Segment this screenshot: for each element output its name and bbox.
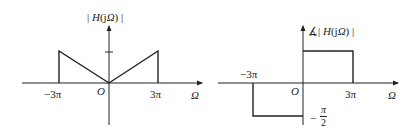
right-xlabel: Ω bbox=[388, 90, 396, 101]
phase-curve-positive bbox=[303, 51, 353, 83]
right-ytick-pi-over-2: π 2 bbox=[320, 105, 327, 128]
ylabel-H: H bbox=[92, 11, 100, 23]
right-ylabel: ∡| H(jΩ) | bbox=[308, 26, 354, 37]
ylabel-j: (j bbox=[331, 25, 338, 37]
magnitude-plot bbox=[22, 26, 202, 125]
ylabel-bar-close: ) | bbox=[115, 11, 124, 23]
left-origin-label: O bbox=[97, 86, 105, 97]
ylabel-j: (j bbox=[100, 11, 107, 23]
ylabel-bar-close: ) | bbox=[346, 25, 355, 37]
ylabel-H: H bbox=[323, 25, 331, 37]
ylabel-omega: Ω bbox=[107, 11, 115, 23]
left-tick-pos-3pi: 3π bbox=[150, 89, 161, 100]
angle-icon: ∡ bbox=[308, 25, 318, 37]
right-tick-neg-3pi: −3π bbox=[240, 69, 257, 80]
right-tick-pos-3pi: 3π bbox=[345, 89, 356, 100]
left-xlabel: Ω bbox=[191, 90, 199, 101]
plots-canvas bbox=[0, 0, 412, 135]
ylabel-omega: Ω bbox=[338, 25, 346, 37]
left-tick-neg-3pi: −3π bbox=[44, 89, 61, 100]
left-ylabel: | H(jΩ) | bbox=[87, 12, 123, 23]
frac-numerator: π bbox=[320, 105, 327, 117]
right-origin-label: O bbox=[291, 86, 299, 97]
frac-denominator: 2 bbox=[320, 117, 327, 128]
right-ytick-minus: − bbox=[310, 113, 316, 124]
